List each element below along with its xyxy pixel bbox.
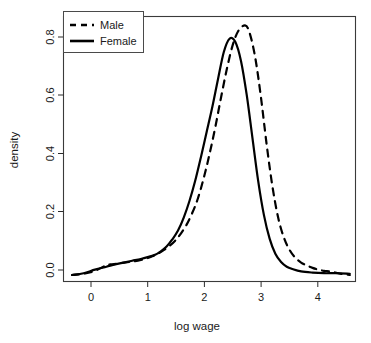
legend-label-female: Female (100, 35, 137, 47)
y-axis-title: density (8, 132, 20, 169)
x-tick-label-1: 1 (145, 291, 151, 303)
y-tick-label-4: 0.8 (44, 29, 56, 44)
legend: Male Female (64, 12, 144, 53)
x-tick-label-3: 3 (258, 291, 264, 303)
x-tick-label-0: 0 (88, 291, 94, 303)
legend-label-male: Male (100, 19, 124, 31)
x-tick-label-4: 4 (315, 291, 321, 303)
y-tick-label-3: 0.6 (44, 87, 56, 102)
y-tick-label-1: 0.2 (44, 204, 56, 219)
y-tick-label-2: 0.4 (44, 146, 56, 161)
x-tick-label-2: 2 (201, 291, 207, 303)
x-axis-title: log wage (174, 320, 220, 332)
density-plot-figure: 0.0 0.2 0.4 0.6 0.8 0 1 2 3 4 log wage d… (0, 0, 371, 343)
y-tick-label-0: 0.0 (44, 262, 56, 277)
